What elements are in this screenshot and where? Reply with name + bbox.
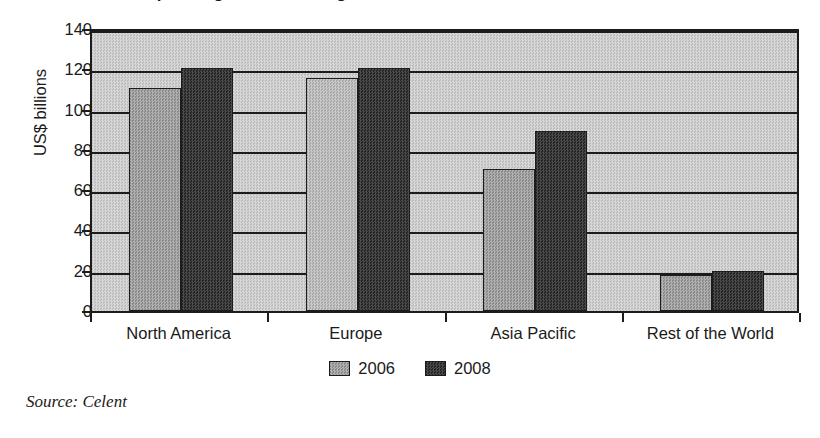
y-tick-label-40: 40 — [32, 222, 92, 239]
plot-area — [90, 29, 799, 313]
category-label-asia-pacific: Asia Pacific — [445, 324, 622, 343]
category-tick-0 — [267, 313, 269, 322]
y-tick-label-60: 60 — [32, 182, 92, 199]
bar-north-america-2008 — [181, 68, 233, 311]
y-tick-label-0: 0 — [32, 303, 92, 320]
bar-north-america-2006 — [129, 88, 181, 311]
y-tick-label-120: 120 — [32, 61, 92, 78]
legend-swatch-2008 — [425, 361, 446, 376]
legend-swatch-2006 — [329, 361, 350, 376]
bar-rest-of-the-world-2008 — [712, 271, 764, 311]
category-tick-1 — [445, 313, 447, 322]
chart-title-cropped: Global spending on risk management — [0, 0, 820, 7]
legend-label-2008: 2008 — [454, 359, 491, 378]
bar-europe-2008 — [358, 68, 410, 311]
category-label-north-america: North America — [90, 324, 267, 343]
bar-asia-pacific-2008 — [535, 131, 587, 311]
chart-title-text: Global spending on risk management — [88, 0, 398, 3]
bar-rest-of-the-world-2006 — [660, 275, 712, 311]
gridline-140 — [92, 31, 797, 33]
bar-europe-2006 — [306, 78, 358, 311]
chart-legend: 20062008 — [0, 359, 820, 378]
category-label-europe: Europe — [267, 324, 444, 343]
legend-label-2006: 2006 — [358, 359, 395, 378]
bar-asia-pacific-2006 — [483, 169, 535, 311]
legend-item-2008: 2008 — [425, 359, 491, 378]
chart-figure: { "figure": { "title_cropped": "Global s… — [0, 0, 820, 438]
category-label-rest-of-the-world: Rest of the World — [622, 324, 799, 343]
y-tick-label-100: 100 — [32, 102, 92, 119]
source-note: Source: Celent — [26, 392, 127, 412]
y-tick-label-20: 20 — [32, 263, 92, 280]
y-tick-label-80: 80 — [32, 142, 92, 159]
category-tick-origin — [90, 313, 92, 322]
category-tick-2 — [622, 313, 624, 322]
category-tick-3 — [799, 313, 801, 322]
legend-item-2006: 2006 — [329, 359, 395, 378]
y-tick-label-140: 140 — [32, 21, 92, 38]
